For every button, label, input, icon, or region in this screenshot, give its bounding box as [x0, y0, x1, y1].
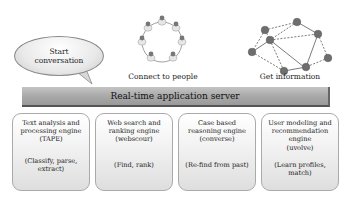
information-network-icon — [240, 10, 340, 76]
engine-subtitle-line: (Classify, parse, — [25, 157, 78, 165]
engine-title-line: (converse) — [182, 135, 252, 143]
people-ring-icon — [133, 12, 191, 72]
engine-box-tape: Text analysis and processing engine (TAP… — [12, 113, 90, 191]
start-conversation-bubble: Start conversation — [14, 36, 104, 76]
engine-title-line: Case based — [182, 119, 252, 127]
engine-subtitle-line: (Find, rank) — [114, 161, 154, 169]
engine-title-line: recommendation — [265, 127, 335, 135]
get-information-caption: Get information — [255, 72, 325, 81]
engine-title-line: reasoning engine — [182, 127, 252, 135]
engine-box-webscour: Web search and ranking engine (webscour)… — [95, 113, 173, 191]
engine-title-line: Text analysis and — [16, 119, 86, 127]
engine-title-line: processing engine — [16, 127, 86, 135]
engine-box-converse: Case based reasoning engine (converse) (… — [178, 113, 256, 191]
engine-subtitle-line: (Learn profiles, — [274, 161, 326, 169]
engine-title-line: (webscour) — [99, 135, 169, 143]
engine-title-line: ranking engine — [99, 127, 169, 135]
server-label: Real-time application server — [110, 91, 239, 101]
engine-subtitle-line: extract) — [25, 165, 78, 173]
bubble-text-line1: Start — [35, 47, 84, 56]
engine-box-uvolve: User modeling and recommendation engine … — [261, 113, 339, 191]
engine-title-line: User modeling and — [265, 119, 335, 127]
connect-to-people-caption: Connect to people — [128, 72, 198, 81]
person-icon — [158, 16, 166, 26]
real-time-application-server-bar: Real-time application server — [22, 87, 330, 107]
engine-title-line: (TAPE) — [16, 135, 86, 143]
engine-title-line: (uvolve) — [265, 144, 335, 152]
engine-subtitle-line: match) — [274, 169, 326, 177]
engine-title-line: engine — [265, 135, 335, 143]
engine-title-line: Web search and — [99, 119, 169, 127]
engine-subtitle-line: (Re-find from past) — [185, 161, 248, 169]
bubble-text-line2: conversation — [35, 56, 84, 65]
